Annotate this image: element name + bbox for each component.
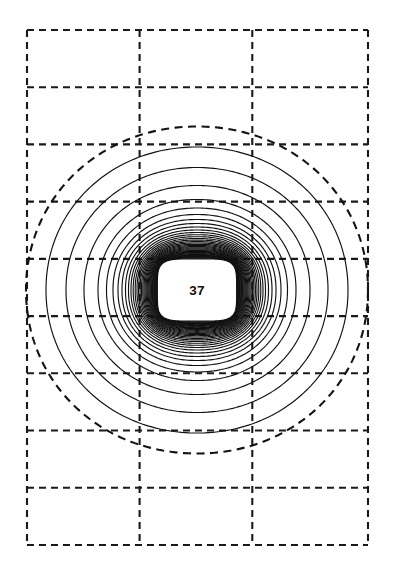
- peak-value-label: 37: [189, 283, 205, 298]
- contour-label-group: 37: [189, 283, 205, 298]
- contour-plot-figure: 37: [0, 0, 395, 580]
- contour-plot-svg: 37: [0, 0, 395, 580]
